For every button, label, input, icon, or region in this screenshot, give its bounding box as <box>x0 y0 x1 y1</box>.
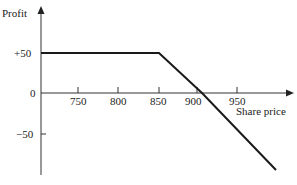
x-tick-label-800: 800 <box>110 95 127 107</box>
x-axis-arrow-icon <box>286 90 294 97</box>
y-tick-label-0: 0 <box>30 87 36 99</box>
x-tick-label-900: 900 <box>185 95 202 107</box>
x-tick-label-950: 950 <box>229 95 246 107</box>
y-tick-label-neg50: −50 <box>16 128 34 140</box>
y-tick-label-50: +50 <box>14 47 32 59</box>
x-tick-label-850: 850 <box>150 95 167 107</box>
y-axis-arrow-icon <box>38 6 45 14</box>
profit-chart: Profit Share price +50 0 −50 750 800 850… <box>0 0 297 185</box>
y-axis-label: Profit <box>2 7 27 19</box>
x-tick-label-750: 750 <box>70 95 87 107</box>
